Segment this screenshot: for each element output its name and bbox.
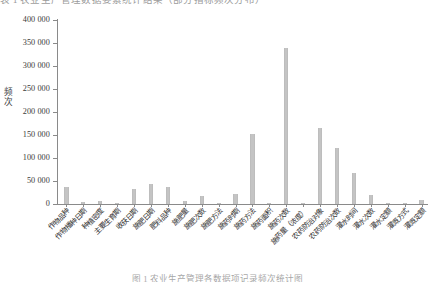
y-axis-tick-label: 300 000	[23, 62, 50, 70]
y-axis-tick-label: 350 000	[23, 39, 50, 47]
bar	[250, 134, 254, 204]
plot-area	[58, 20, 430, 204]
y-axis-title: 频次	[2, 88, 14, 107]
bar	[115, 203, 119, 204]
bar	[352, 173, 356, 204]
y-axis-tick	[53, 204, 58, 205]
x-axis-tick	[66, 204, 67, 207]
y-axis-tick-label: 150 000	[23, 131, 50, 139]
bar	[284, 48, 288, 204]
y-axis-tick-label: 400 000	[23, 16, 50, 24]
y-axis-tick-label: 50 000	[27, 177, 50, 185]
x-axis-line	[57, 204, 428, 205]
bar	[81, 202, 85, 204]
bar	[403, 203, 407, 204]
bar	[335, 148, 339, 204]
y-axis-tick-label: 100 000	[23, 154, 50, 162]
bar	[369, 195, 373, 204]
bar	[200, 196, 204, 204]
bar	[419, 200, 423, 204]
bar	[64, 187, 68, 204]
bar	[217, 203, 221, 204]
bar	[132, 189, 136, 204]
bottom-caption: 图 1 农业生产管理各数据项记录频次统计图	[0, 271, 435, 282]
y-axis-tick-label: 0	[46, 200, 50, 208]
y-axis-tick-label: 250 000	[23, 85, 50, 93]
y-axis-tick-label: 200 000	[23, 108, 50, 116]
bottom-caption-text: 图 1 农业生产管理各数据项记录频次统计图	[132, 274, 303, 282]
bar	[386, 203, 390, 204]
bar	[166, 187, 170, 204]
bar-chart-figure: 频次 050 000100 000150 000200 000250 00030…	[0, 0, 435, 282]
bar	[183, 201, 187, 204]
bar	[318, 128, 322, 204]
bar	[233, 194, 237, 204]
bar	[301, 203, 305, 204]
bar	[267, 203, 271, 204]
bar	[98, 201, 102, 204]
bar	[149, 184, 153, 204]
x-axis-tick	[252, 204, 253, 207]
